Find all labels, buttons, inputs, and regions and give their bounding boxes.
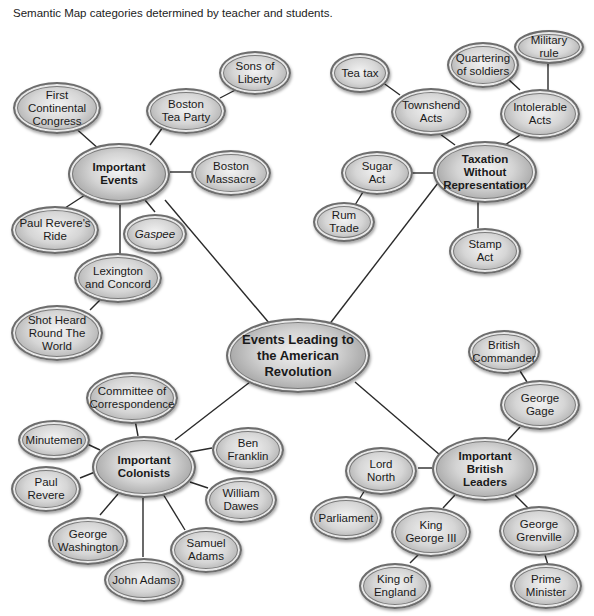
node-william-dawes: William Dawes <box>205 477 277 523</box>
node-george-washington: George Washington <box>48 517 128 565</box>
node-shot-heard-round-the-world: Shot Heard Round The World <box>11 305 103 361</box>
node-gaspee: Gaspee <box>123 214 187 254</box>
node-townshend-acts: Townshend Acts <box>391 88 471 136</box>
central-node: Events Leading to the American Revolutio… <box>226 318 370 393</box>
node-british-commander: British Commander <box>468 330 540 374</box>
central-node-label: Events Leading to the American Revolutio… <box>242 332 354 380</box>
hub-important-british-leaders: Important British Leaders <box>432 437 538 501</box>
hub-important-events: Important Events <box>68 143 170 205</box>
node-george-gage: George Gage <box>500 380 580 430</box>
node-george-grenville: George Grenville <box>499 506 579 556</box>
node-stamp-act: Stamp Act <box>449 228 521 274</box>
node-tea-tax: Tea tax <box>330 53 390 93</box>
node-lord-north: Lord North <box>345 447 417 495</box>
hub-important-colonists: Important Colonists <box>92 436 196 498</box>
node-parliament: Parliament <box>310 496 382 540</box>
node-john-adams: John Adams <box>104 558 184 602</box>
node-sugar-act: Sugar Act <box>341 151 413 195</box>
node-ben-franklin: Ben Franklin <box>212 427 284 473</box>
node-king-george-iii: King George III <box>391 507 471 557</box>
node-paul-reveres-ride: Paul Revere's Ride <box>11 206 99 254</box>
node-intolerable-acts: Intolerable Acts <box>500 89 580 139</box>
node-paul-revere: Paul Revere <box>11 466 81 512</box>
node-minutemen: Minutemen <box>18 420 90 460</box>
node-committee-of-correspondence: Committee of Correspondence <box>86 372 178 424</box>
node-military-rule: Military rule <box>514 30 584 64</box>
node-rum-trade: Rum Trade <box>313 202 375 242</box>
node-sons-of-liberty: Sons of Liberty <box>219 51 291 95</box>
node-prime-minister: Prime Minister <box>510 563 582 609</box>
hub-taxation-without-representation: Taxation Without Representation <box>433 141 537 203</box>
node-samuel-adams: Samuel Adams <box>170 527 242 573</box>
node-lexington-and-concord: Lexington and Concord <box>74 253 162 303</box>
node-boston-tea-party: Boston Tea Party <box>146 88 226 134</box>
node-boston-massacre: Boston Massacre <box>191 150 271 196</box>
node-king-of-england: King of England <box>359 563 431 609</box>
node-quartering-of-soldiers: Quartering of soldiers <box>447 42 519 88</box>
node-first-continental-congress: First Continental Congress <box>13 82 101 134</box>
